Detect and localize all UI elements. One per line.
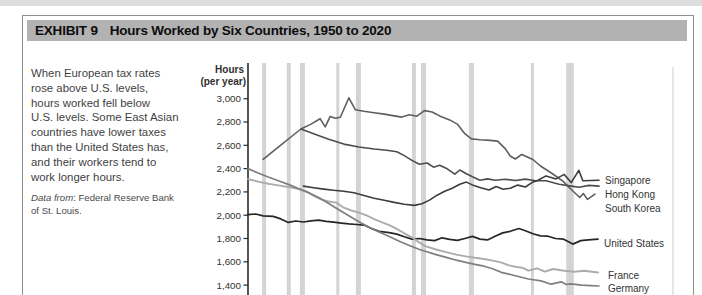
recession-band xyxy=(336,63,339,295)
recession-band xyxy=(421,63,426,295)
y-tick-label: 2,400 xyxy=(216,163,241,174)
recession-band xyxy=(356,63,361,295)
line-chart: Hours(per year)3,0002,8002,6002,4002,200… xyxy=(196,59,702,295)
recession-band xyxy=(262,63,266,295)
series-label-france: France xyxy=(608,270,640,281)
series-label-singapore: Singapore xyxy=(605,175,651,186)
data-source-line1: Data from: Federal Reserve Bank xyxy=(31,192,207,205)
series-label-south-korea: South Korea xyxy=(605,203,661,214)
recession-band xyxy=(300,63,305,295)
y-tick-label: 1,800 xyxy=(216,233,241,244)
y-tick-label: 2,800 xyxy=(216,116,241,127)
exhibit-title-bar: EXHIBIT 9 Hours Worked by Six Countries,… xyxy=(27,20,687,41)
recession-band xyxy=(531,63,534,295)
data-source-rest: : Federal Reserve Bank xyxy=(73,192,174,203)
recession-band xyxy=(287,63,291,295)
page-top-strip xyxy=(0,0,702,6)
y-tick-label: 2,000 xyxy=(216,210,241,221)
y-axis-title-line2: (per year) xyxy=(200,76,246,87)
recession-band xyxy=(469,63,474,295)
series-line-south-korea xyxy=(263,98,595,200)
chart-svg: Hours(per year)3,0002,8002,6002,4002,200… xyxy=(196,59,702,295)
y-tick-label: 1,600 xyxy=(216,256,241,267)
exhibit-label: EXHIBIT 9 xyxy=(35,23,98,38)
page: EXHIBIT 9 Hours Worked by Six Countries,… xyxy=(0,0,702,295)
caption-paragraph: When European tax rates rose above U.S. … xyxy=(31,66,207,185)
recession-band xyxy=(412,63,416,295)
data-source-note: Data from: Federal Reserve Bank of St. L… xyxy=(31,192,207,218)
exhibit-title: Hours Worked by Six Countries, 1950 to 2… xyxy=(110,23,392,38)
series-label-united-states: United States xyxy=(604,238,664,249)
series-label-germany: Germany xyxy=(608,283,649,294)
data-source-prefix: Data from xyxy=(31,192,73,203)
y-tick-label: 3,000 xyxy=(216,93,241,104)
data-source-line2: of St. Louis. xyxy=(31,205,207,218)
y-tick-label: 2,200 xyxy=(216,186,241,197)
y-tick-label: 1,400 xyxy=(216,280,241,291)
y-tick-label: 2,600 xyxy=(216,140,241,151)
exhibit-box: EXHIBIT 9 Hours Worked by Six Countries,… xyxy=(22,15,694,295)
y-axis-title-line1: Hours xyxy=(215,64,244,75)
caption-block: When European tax rates rose above U.S. … xyxy=(31,66,207,218)
series-label-hong-kong: Hong Kong xyxy=(605,189,655,200)
